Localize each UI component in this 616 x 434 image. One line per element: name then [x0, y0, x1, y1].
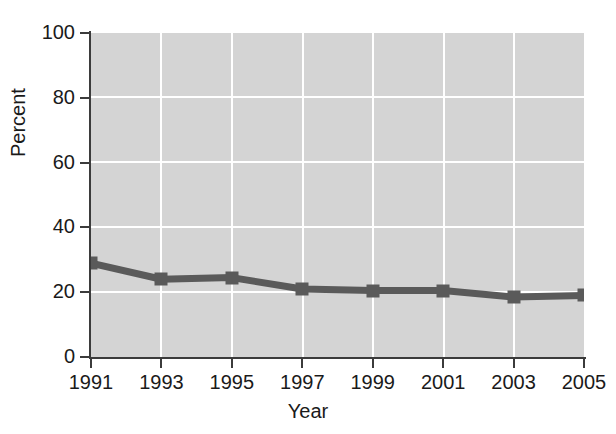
y-axis-tick-label: 80	[30, 87, 75, 107]
data-series-line	[91, 33, 584, 357]
y-axis-tick-label: 40	[30, 216, 75, 236]
data-point-marker	[91, 257, 98, 270]
x-axis-tick-label: 1991	[56, 372, 126, 392]
x-axis-title: Year	[0, 400, 616, 422]
y-axis-tick-label: 100	[30, 22, 75, 42]
x-axis-tick-label: 2005	[549, 372, 616, 392]
y-axis-tick	[80, 356, 89, 358]
x-axis-tick-label: 2001	[408, 372, 478, 392]
data-point-marker	[366, 284, 379, 297]
y-axis-line	[89, 31, 91, 359]
x-axis-tick	[442, 359, 444, 368]
data-point-marker	[155, 273, 168, 286]
x-axis-tick-label: 2003	[479, 372, 549, 392]
x-axis-line	[89, 357, 586, 359]
data-point-marker	[437, 284, 450, 297]
x-axis-tick-label: 1993	[126, 372, 196, 392]
x-axis-tick	[513, 359, 515, 368]
data-point-marker	[578, 289, 585, 302]
data-point-marker	[296, 282, 309, 295]
data-point-marker	[225, 271, 238, 284]
y-axis-tick-label: 0	[30, 346, 75, 366]
y-axis-tick	[80, 97, 89, 99]
y-axis-tick	[80, 162, 89, 164]
y-axis-tick	[80, 291, 89, 293]
y-axis-tick	[80, 32, 89, 34]
x-axis-tick-label: 1995	[197, 372, 267, 392]
y-axis-title: Percent	[7, 129, 29, 157]
data-point-marker	[507, 291, 520, 304]
x-axis-tick	[160, 359, 162, 368]
y-axis-tick	[80, 226, 89, 228]
y-axis-tick-label: 20	[30, 281, 75, 301]
x-axis-tick	[90, 359, 92, 368]
chart-figure: 020406080100 199119931995199719992001200…	[0, 0, 616, 434]
x-axis-tick-label: 1997	[267, 372, 337, 392]
x-axis-tick	[301, 359, 303, 368]
x-axis-tick	[231, 359, 233, 368]
x-axis-tick	[583, 359, 585, 368]
plot-area	[91, 33, 584, 357]
x-axis-tick	[372, 359, 374, 368]
y-axis-tick-label: 60	[30, 152, 75, 172]
x-axis-tick-label: 1999	[338, 372, 408, 392]
